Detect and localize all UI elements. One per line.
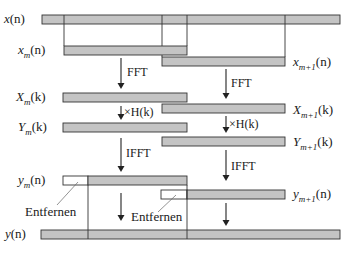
- label-ym1-n: ym+1(n): [293, 187, 331, 204]
- arrow-fft-left: [118, 58, 125, 89]
- block-m1-product-bar: [162, 137, 285, 146]
- note-remove-right: Entfernen: [131, 210, 182, 223]
- block-m-discard-segment: [63, 176, 88, 185]
- block-m1-output-bar: [187, 190, 285, 199]
- block-m1-spectrum-bar: [162, 104, 285, 113]
- arrow-out-right: [223, 203, 230, 226]
- label-y-n: y(n): [5, 227, 26, 240]
- block-m1-input-bar: [162, 57, 285, 66]
- block-m1-discard-segment: [161, 190, 187, 199]
- block-m-output-bar: [88, 176, 187, 185]
- arrow-ifft-left: [118, 138, 125, 172]
- input-signal-bar: [42, 15, 340, 24]
- label-Ym1-k: Ym+1(k): [293, 135, 332, 152]
- label-ym-n: ym(n): [18, 173, 45, 190]
- output-signal-bar: [41, 230, 340, 239]
- op-ifft-right: IFFT: [231, 160, 256, 172]
- block-m-spectrum-bar: [63, 93, 187, 102]
- note-remove-left: Entfernen: [25, 205, 76, 218]
- arrow-fft-right: [223, 69, 230, 99]
- label-Xm1-k: Xm+1(k): [293, 103, 333, 120]
- label-xm-n: xm(n): [18, 43, 45, 60]
- block-m-input-bar: [64, 46, 187, 55]
- label-Ym-k: Ym(k): [18, 120, 47, 137]
- op-ifft-left: IFFT: [126, 147, 151, 159]
- op-fft-right: FFT: [231, 77, 252, 89]
- label-xm1-n: xm+1(n): [293, 55, 331, 72]
- op-mult-right: ×H(k): [229, 118, 258, 130]
- label-x-n: x(n): [4, 12, 25, 25]
- block-m-product-bar: [63, 123, 187, 132]
- op-fft-left: FFT: [127, 66, 148, 78]
- op-mult-left: ×H(k): [124, 106, 153, 118]
- arrow-ifft-right: [223, 150, 230, 181]
- label-Xm-k: Xm(k): [16, 90, 46, 107]
- arrow-out-left: [118, 193, 125, 221]
